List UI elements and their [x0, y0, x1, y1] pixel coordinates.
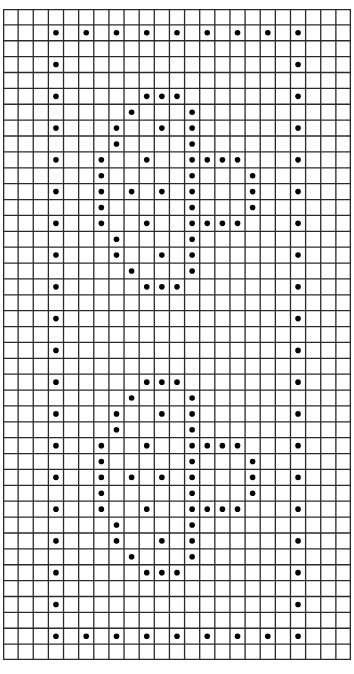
- motif-dot: [159, 411, 165, 417]
- grid-canvas: [3, 9, 351, 660]
- motif-dot: [189, 538, 195, 544]
- motif-dot: [250, 475, 256, 481]
- border-dot: [295, 30, 301, 36]
- motif-dot: [114, 538, 120, 544]
- border-dot: [295, 62, 301, 68]
- motif-dot: [99, 189, 105, 195]
- dot-grid-diagram: [3, 9, 351, 660]
- motif-dot: [189, 141, 195, 147]
- motif-dot: [235, 506, 241, 512]
- motif-dot: [189, 157, 195, 163]
- motif-dot: [114, 125, 120, 131]
- motif-dot: [189, 109, 195, 115]
- motif-dot: [159, 570, 165, 576]
- border-dot: [295, 633, 301, 639]
- border-dot: [53, 602, 59, 608]
- border-dot: [53, 570, 59, 576]
- border-dot: [114, 30, 120, 36]
- motif-dot: [144, 284, 150, 290]
- border-dot: [53, 633, 59, 639]
- motif-dot: [114, 141, 120, 147]
- motif-dot: [99, 506, 105, 512]
- border-dot: [295, 284, 301, 290]
- motif-dot: [220, 157, 226, 163]
- border-dot: [53, 538, 59, 544]
- border-dot: [114, 633, 120, 639]
- motif-dot: [189, 221, 195, 227]
- motif-dot: [189, 236, 195, 242]
- border-dot: [235, 633, 241, 639]
- motif-dot: [99, 205, 105, 211]
- border-dot: [53, 348, 59, 354]
- motif-dot: [189, 173, 195, 179]
- motif-dot: [99, 173, 105, 179]
- border-dot: [204, 633, 210, 639]
- motif-dot: [204, 157, 210, 163]
- motif-dot: [250, 490, 256, 496]
- motif-dot: [189, 475, 195, 481]
- motif-dot: [144, 506, 150, 512]
- motif-dot: [250, 189, 256, 195]
- border-dot: [174, 633, 180, 639]
- motif-dot: [114, 236, 120, 242]
- motif-dot: [159, 252, 165, 258]
- motif-dot: [99, 157, 105, 163]
- motif-dot: [144, 570, 150, 576]
- motif-dot: [159, 189, 165, 195]
- motif-dot: [129, 268, 135, 274]
- motif-dot: [144, 157, 150, 163]
- border-dot: [265, 30, 271, 36]
- motif-dot: [99, 443, 105, 449]
- motif-dot: [235, 443, 241, 449]
- border-dot: [295, 379, 301, 385]
- motif-dot: [189, 459, 195, 465]
- motif-dot: [220, 443, 226, 449]
- motif-dot: [114, 522, 120, 528]
- border-dot: [83, 30, 89, 36]
- border-dot: [53, 316, 59, 322]
- motif-dot: [129, 189, 135, 195]
- border-dot: [53, 189, 59, 195]
- border-dot: [295, 94, 301, 100]
- motif-dot: [144, 443, 150, 449]
- motif-dot: [189, 205, 195, 211]
- motif-dot: [144, 379, 150, 385]
- border-dot: [53, 62, 59, 68]
- border-dot: [144, 633, 150, 639]
- motif-dot: [189, 395, 195, 401]
- border-dot: [265, 633, 271, 639]
- border-dot: [295, 443, 301, 449]
- motif-dot: [159, 94, 165, 100]
- border-dot: [53, 443, 59, 449]
- motif-dot: [159, 379, 165, 385]
- motif-dot: [174, 570, 180, 576]
- border-dot: [53, 379, 59, 385]
- border-dot: [204, 30, 210, 36]
- border-dot: [53, 284, 59, 290]
- motif-dot-groups: [99, 94, 256, 576]
- border-dot: [235, 30, 241, 36]
- motif-dot: [114, 411, 120, 417]
- border-dot: [53, 125, 59, 131]
- motif-dot: [114, 427, 120, 433]
- motif-dot: [99, 490, 105, 496]
- border-dot: [53, 94, 59, 100]
- border-dot: [53, 252, 59, 258]
- border-dot: [295, 125, 301, 131]
- motif-dot: [204, 506, 210, 512]
- motif-dot: [250, 459, 256, 465]
- border-dot: [83, 633, 89, 639]
- motif-dot: [99, 459, 105, 465]
- border-dot: [295, 221, 301, 227]
- border-dot: [295, 252, 301, 258]
- border-dot: [295, 189, 301, 195]
- motif-dot: [159, 284, 165, 290]
- motif-dot: [159, 475, 165, 481]
- upper-motif: [99, 94, 256, 290]
- motif-dot: [189, 506, 195, 512]
- grid-lines: [3, 9, 351, 660]
- motif-dot: [189, 490, 195, 496]
- border-dot: [144, 30, 150, 36]
- motif-dot: [250, 205, 256, 211]
- motif-dot: [189, 252, 195, 258]
